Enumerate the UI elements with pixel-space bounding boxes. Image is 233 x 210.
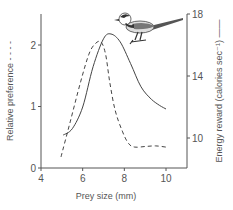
x-tick-label: 8	[122, 173, 128, 184]
bird-tail	[150, 18, 183, 30]
bird-legs	[130, 32, 146, 44]
y-left-tick-label: 2	[30, 40, 36, 51]
x-tick-label: 4	[38, 173, 44, 184]
series-relative-preference	[61, 41, 166, 157]
y-right-axis-label: Energy reward (calories sec⁻¹) ——	[214, 19, 224, 162]
chart: 46810012101418Prey size (mm)Relative pre…	[0, 0, 233, 210]
series-energy-reward	[63, 34, 166, 135]
y-right-tick-label: 18	[192, 9, 204, 20]
x-tick-label: 6	[80, 173, 86, 184]
y-left-tick-label: 1	[30, 101, 36, 112]
y-left-tick-label: 0	[30, 163, 36, 174]
bird-illustration	[114, 13, 183, 44]
y-right-tick-label: 14	[192, 71, 204, 82]
bird-beak	[114, 19, 119, 21]
x-tick-label: 10	[160, 173, 172, 184]
y-left-axis-label: Relative preference - - - -	[5, 41, 15, 141]
y-right-tick-label: 10	[192, 133, 204, 144]
x-axis-label: Prey size (mm)	[76, 191, 137, 201]
